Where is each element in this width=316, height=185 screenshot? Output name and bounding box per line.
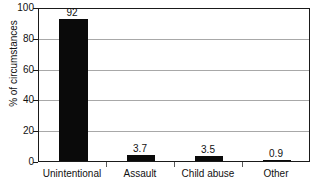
bar-value-label: 3.5 (188, 145, 228, 155)
bar-value-label: 3.7 (120, 144, 160, 154)
x-axis-category-label: Other (226, 168, 316, 180)
bar-value-label: 92 (52, 8, 92, 18)
y-axis-tick-label: 40 (10, 95, 34, 105)
bar (195, 156, 223, 161)
x-axis-tick-mark (174, 162, 175, 167)
y-axis-tick-mark (33, 162, 38, 163)
plot-area (38, 8, 310, 162)
x-axis-tick-mark (242, 162, 243, 167)
bar (127, 155, 155, 161)
y-axis-tick-labels: 020406080100 (8, 0, 34, 185)
bar-value-label: 0.9 (256, 149, 296, 159)
y-axis-tick-label: 100 (10, 3, 34, 13)
x-axis-tick-mark (106, 162, 107, 167)
bar (263, 160, 291, 162)
bar (59, 19, 88, 161)
y-axis-tick-label: 60 (10, 65, 34, 75)
y-axis-tick-label: 20 (10, 126, 34, 136)
y-axis-tick-label: 80 (10, 34, 34, 44)
bar-chart: % of circumstances 020406080100 923.73.5… (0, 0, 316, 185)
y-axis-tick-label: 0 (10, 157, 34, 167)
